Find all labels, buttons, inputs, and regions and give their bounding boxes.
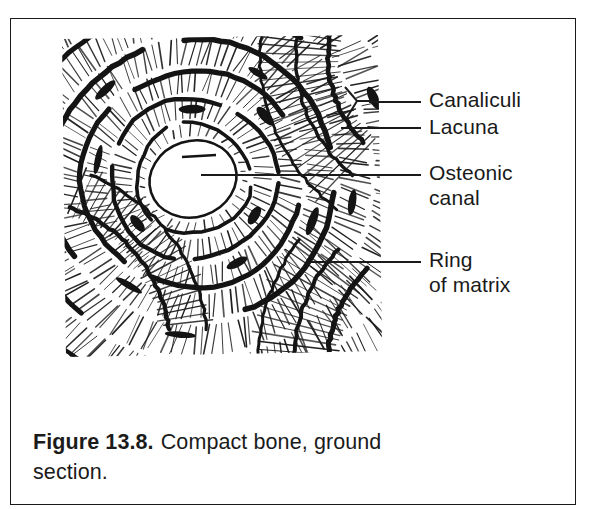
callout-label-osteonic-canal: Osteonic canal: [429, 160, 513, 210]
figure-frame: Canaliculi Lacuna Osteonic canal Ring of…: [10, 18, 576, 505]
leader-line-osteonic-canal: [201, 174, 421, 176]
callout-label-lacuna: Lacuna: [429, 114, 499, 139]
leader-fork-canaliculi: [343, 81, 375, 123]
figure-caption: Figure 13.8.Compact bone, ground section…: [33, 427, 433, 487]
leader-line-lacuna: [341, 127, 421, 129]
callout-label-canaliculi: Canaliculi: [429, 87, 521, 112]
leader-line-canaliculi: [369, 101, 421, 103]
callout-label-ring-of-matrix: Ring of matrix: [429, 247, 510, 297]
osteon-drawing: [56, 31, 386, 361]
compact-bone-illustration: [56, 31, 386, 361]
leader-line-ring-of-matrix: [311, 261, 421, 263]
figure-number: Figure 13.8.: [33, 430, 154, 454]
